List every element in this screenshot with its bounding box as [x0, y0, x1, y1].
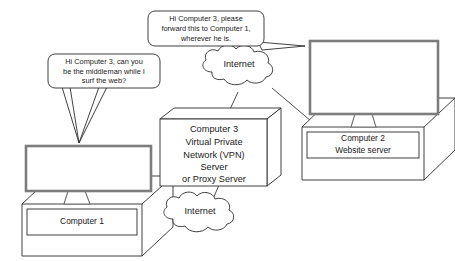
speech-bubble-computer2[interactable]: Hi Computer 3, please forward this to Co…: [148, 11, 305, 50]
cloud-upper-label: Internet: [223, 59, 255, 69]
speech-bubble-computer2-tail: [258, 42, 305, 50]
cloud-upper[interactable]: Internet: [203, 45, 273, 85]
computer-2-label-line-1: Computer 2: [341, 133, 385, 143]
diagram-canvas: Computer 2 Website server Computer 1 Com…: [0, 0, 455, 261]
speech-bubble-computer1-line-2: be the middleman while I: [63, 67, 145, 76]
speech-bubble-computer2-line-3: wherever he is.: [180, 34, 231, 43]
computer-2-label-line-2: Website server: [335, 145, 391, 155]
network-diagram: Computer 2 Website server Computer 1 Com…: [0, 0, 455, 261]
speech-bubble-computer2-line-1: Hi Computer 3, please: [169, 14, 243, 23]
speech-bubble-computer1-line-3: surf the web?: [82, 76, 126, 85]
computer-1-label: Computer 1: [60, 216, 104, 226]
speech-bubble-computer1[interactable]: Hi Computer 3, can you be the middleman …: [48, 54, 160, 143]
vpn-label-line-4: Server: [200, 162, 227, 172]
computer-1-monitor-screen[interactable]: [26, 146, 151, 191]
vpn-label-line-5: or Proxy Server: [182, 174, 246, 184]
vpn-box-right-face: [267, 108, 281, 186]
computer-1-monitor-stand: [64, 191, 90, 204]
speech-bubble-computer1-line-1: Hi Computer 3, can you: [65, 57, 143, 66]
vpn-label-line-1: Computer 3: [190, 124, 238, 134]
computer-1-node[interactable]: Computer 1: [22, 146, 173, 256]
cloud-lower-label: Internet: [184, 206, 216, 216]
computer-3-vpn-node[interactable]: Computer 3 Virtual Private Network (VPN)…: [160, 108, 281, 186]
computer-2-monitor-stand: [351, 114, 376, 127]
computer-2-monitor-screen[interactable]: [310, 41, 438, 114]
speech-bubble-computer1-tail-left: [62, 87, 79, 143]
speech-bubble-computer2-line-2: forward this to Computer 1,: [161, 24, 250, 33]
vpn-label-line-3: Network (VPN): [183, 150, 244, 160]
vpn-label-line-2: Virtual Private: [185, 137, 242, 147]
vpn-box-top-face: [160, 108, 281, 119]
computer-2-node[interactable]: Computer 2 Website server: [302, 41, 455, 180]
speech-bubble-computer1-tail-right: [79, 87, 107, 143]
cloud-lower[interactable]: Internet: [164, 192, 234, 232]
